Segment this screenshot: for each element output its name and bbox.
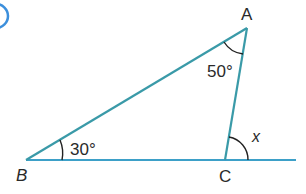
vertex-label-a: A [241, 5, 253, 24]
question-number-circle [0, 4, 8, 28]
angle-arc-a [224, 42, 243, 54]
angle-label-x: x [251, 128, 261, 145]
angle-label-a: 50° [207, 62, 233, 81]
vertex-label-c: C [219, 167, 231, 186]
triangle-diagram: A B C 50° 30° x [0, 0, 306, 194]
side-ba [26, 28, 247, 160]
vertex-label-b: B [16, 166, 27, 185]
angle-label-b: 30° [70, 140, 96, 159]
angle-arc-x [229, 137, 248, 160]
angle-arc-b [60, 140, 63, 160]
